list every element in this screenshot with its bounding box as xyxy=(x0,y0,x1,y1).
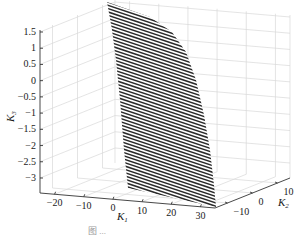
figure-caption: 图 ... xyxy=(88,226,106,236)
z-tick-label: 0.5 xyxy=(24,58,37,69)
x-tick-label: 0 xyxy=(110,202,115,213)
y-tick-label: −10 xyxy=(234,206,250,217)
z-tick-label: −1 xyxy=(25,107,36,118)
z-tick-label: 1 xyxy=(31,42,36,53)
x-tick-label: −20 xyxy=(47,197,63,208)
z-tick-label: −1.5 xyxy=(18,123,36,134)
z-tick-label: 0 xyxy=(31,75,36,86)
x-axis-label: K1 xyxy=(116,210,128,224)
z-tick-label: −2.5 xyxy=(18,156,36,167)
x-tick-label: 20 xyxy=(166,207,176,218)
y-tick-label: 0 xyxy=(259,196,264,207)
z-tick-label: −2 xyxy=(25,140,36,151)
surface xyxy=(100,0,220,236)
z-axis-ticks: 1.510.50−0.5−1−1.5−2−2.5−3 xyxy=(18,26,43,183)
z-axis-label: K3 xyxy=(4,111,18,123)
z-tick-label: −0.5 xyxy=(18,91,36,102)
z-tick-label: 1.5 xyxy=(24,26,37,37)
z-tick-label: −3 xyxy=(25,172,36,183)
x-tick-label: −10 xyxy=(76,200,92,211)
x-tick-label: 30 xyxy=(195,210,205,221)
y-axis-label: K2 xyxy=(277,196,289,210)
x-tick-label: 10 xyxy=(137,205,147,216)
3d-surface-chart: 1.510.50−0.5−1−1.5−2−2.5−3 −20−100102030… xyxy=(0,0,301,236)
